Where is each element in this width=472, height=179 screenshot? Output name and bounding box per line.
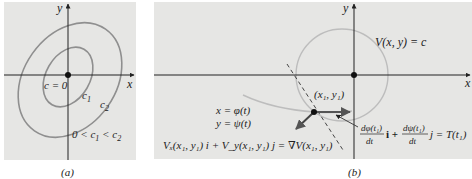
caption-b: (b) [348,166,361,179]
point-label: (x₁, y₁) [314,88,345,101]
origin-point [351,72,357,78]
level-curve-label: V(x, y) = c [375,35,427,49]
x-axis-label: x [464,76,471,90]
y-axis-label: y [342,1,349,15]
param-y-label: y = ψ(t) [215,117,251,130]
panel-b: y x V(x, y) = c (x₁, y₁) x = φ(t) y = ψ(… [154,1,472,159]
origin-label: c = 0 [44,79,68,91]
panel-a: y x c = 0 c1 c2 0 < c1 < c2 [0,1,143,160]
point-x1-y1 [311,109,317,115]
origin-point [65,72,71,78]
figure: y x c = 0 c1 c2 0 < c1 < c2 (a) y x V(x,… [0,0,472,179]
svg-text:dt: dt [366,136,374,146]
caption-a: (a) [61,166,74,179]
y-axis-label: y [56,1,63,15]
svg-text:dφ(t₁): dφ(t₁) [361,123,382,133]
panel-b-background [154,2,472,159]
x-axis-label: x [126,77,133,91]
svg-text:dt: dt [409,136,417,146]
gradient-equation: Vₓ(x₁, y₁) i + V_y(x₁, y₁) j = ∇V(x₁, y₁… [163,139,333,152]
svg-text:j = T(t₁): j = T(t₁) [428,128,467,141]
svg-text:dψ(t₁): dψ(t₁) [403,123,425,133]
svg-text:i +: i + [386,128,398,140]
param-x-label: x = φ(t) [215,104,251,117]
